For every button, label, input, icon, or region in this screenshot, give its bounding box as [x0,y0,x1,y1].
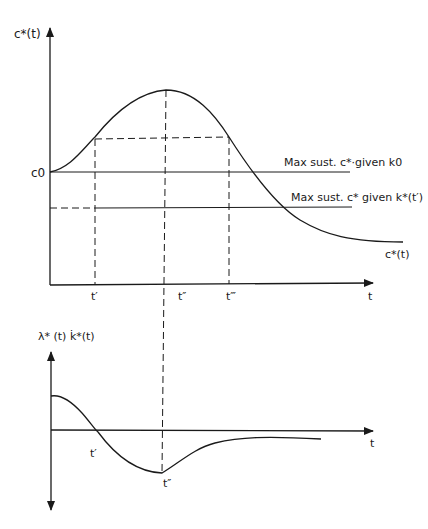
bottom-tick-t2: t″ [163,477,171,490]
optimal-consumption-diagram: c*(t) c0 t c*(t) Max sust. c*·given k0 M… [0,0,428,529]
lambda-kdot-curve [51,396,321,473]
top-y-axis-label: c*(t) [14,27,41,41]
tick-t2: t″ [178,290,186,303]
ref-line-kt [95,207,352,208]
top-x-axis [50,283,373,285]
top-x-axis-label: t [368,290,373,303]
bottom-tick-t1: t′ [90,447,97,460]
tick-t3: t‴ [226,290,236,303]
top-panel: c*(t) c0 t c*(t) Max sust. c*·given k0 M… [14,27,423,303]
bottom-panel: λ* (t) k̇*(t) t t′ t″ [38,330,375,510]
dashed-level-line [95,137,229,139]
curve-label: c*(t) [385,248,409,261]
c0-label: c0 [31,166,45,180]
dashed-t2 [162,90,166,473]
ref-line-2-label: Max sust. c* given k*(t′) [291,191,423,204]
ref-line-1-label: Max sust. c*·given k0 [284,156,402,169]
bottom-x-axis-label: t [370,437,375,450]
bottom-y-axis-label: λ* (t) k̇*(t) [38,330,95,343]
tick-t1: t′ [91,290,98,303]
bottom-x-axis [51,430,373,431]
